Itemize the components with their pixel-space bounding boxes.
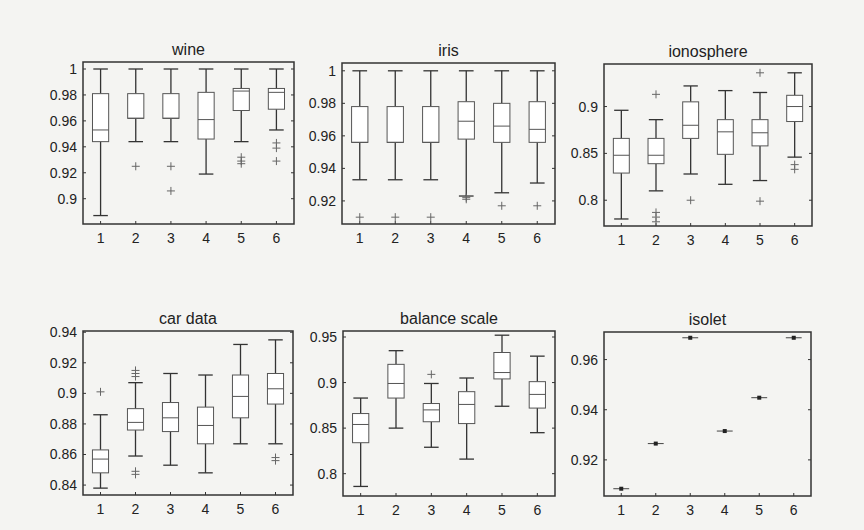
y-tick-label: 0.98: [309, 95, 336, 111]
x-tick-label: 5: [237, 230, 245, 246]
x-tick-label: 6: [533, 230, 541, 246]
point-marker: [757, 396, 761, 400]
subplot-title: ionosphere: [668, 43, 747, 60]
x-tick-label: 5: [498, 230, 506, 246]
iqr-box: [683, 102, 699, 139]
x-tick-label: 3: [167, 230, 175, 246]
figure-canvas: wine10.980.960.940.920.9123456iris10.980…: [0, 0, 864, 530]
y-tick-label: 0.92: [50, 165, 77, 181]
y-tick-label: 0.8: [318, 466, 338, 482]
x-tick-label: 3: [687, 232, 695, 248]
subplot-title: wine: [171, 41, 205, 58]
iqr-box: [388, 364, 404, 398]
iqr-box: [198, 92, 214, 139]
x-tick-label: 2: [652, 502, 660, 518]
subplot-title: isolet: [689, 311, 727, 328]
y-tick-label: 0.95: [310, 329, 337, 345]
y-tick-label: 0.9: [579, 99, 599, 115]
x-tick-label: 6: [533, 502, 541, 518]
iqr-box: [387, 107, 403, 143]
y-tick-label: 1: [328, 63, 336, 79]
iqr-box: [233, 88, 249, 110]
x-tick-label: 6: [791, 232, 799, 248]
x-tick-label: 5: [498, 502, 506, 518]
x-tick-label: 6: [790, 502, 798, 518]
iqr-box: [128, 94, 144, 119]
x-tick-label: 5: [237, 501, 245, 517]
iqr-box: [423, 107, 439, 143]
y-tick-label: 1: [69, 61, 77, 77]
figure-background: [0, 0, 864, 530]
y-tick-label: 0.94: [50, 324, 77, 340]
y-tick-label: 0.9: [318, 375, 338, 391]
iqr-box: [648, 138, 664, 163]
iqr-box: [459, 392, 475, 424]
x-tick-label: 1: [357, 502, 365, 518]
x-tick-label: 2: [391, 230, 399, 246]
x-tick-label: 2: [132, 501, 140, 517]
iqr-box: [162, 403, 178, 432]
x-tick-label: 1: [97, 501, 105, 517]
subplot-title: iris: [438, 42, 458, 59]
y-tick-label: 0.92: [50, 355, 77, 371]
x-tick-label: 1: [356, 230, 364, 246]
point-marker: [792, 336, 796, 340]
iqr-box: [352, 107, 368, 143]
x-tick-label: 3: [427, 230, 435, 246]
x-tick-label: 6: [273, 230, 281, 246]
iqr-box: [494, 103, 510, 142]
iqr-box: [92, 450, 108, 473]
point-marker: [619, 487, 623, 491]
x-tick-label: 3: [167, 501, 175, 517]
iqr-box: [268, 88, 284, 109]
y-tick-label: 0.92: [309, 193, 336, 209]
iqr-box: [353, 414, 369, 443]
iqr-box: [494, 353, 510, 379]
y-tick-label: 0.84: [50, 477, 77, 493]
x-tick-label: 1: [97, 230, 105, 246]
point-marker: [688, 336, 692, 340]
x-tick-label: 5: [755, 502, 763, 518]
subplot-title: car data: [159, 310, 217, 327]
x-tick-label: 4: [721, 232, 729, 248]
y-tick-label: 0.85: [571, 145, 598, 161]
iqr-box: [92, 94, 108, 142]
y-tick-label: 0.96: [571, 352, 598, 368]
y-tick-label: 0.94: [50, 139, 77, 155]
y-tick-label: 0.96: [50, 113, 77, 129]
x-tick-label: 4: [202, 501, 210, 517]
y-tick-label: 0.85: [310, 420, 337, 436]
iqr-box: [127, 409, 143, 430]
y-tick-label: 0.96: [309, 128, 336, 144]
iqr-box: [787, 95, 803, 121]
y-tick-label: 0.8: [579, 192, 599, 208]
x-tick-label: 1: [617, 232, 625, 248]
y-tick-label: 0.94: [309, 160, 336, 176]
x-tick-label: 4: [721, 502, 729, 518]
x-tick-label: 3: [686, 502, 694, 518]
iqr-box: [423, 404, 439, 422]
x-tick-label: 1: [617, 502, 625, 518]
y-tick-label: 0.92: [571, 452, 598, 468]
x-tick-label: 2: [392, 502, 400, 518]
x-tick-label: 4: [462, 230, 470, 246]
iqr-box: [163, 94, 179, 119]
x-tick-label: 4: [463, 502, 471, 518]
y-tick-label: 0.9: [58, 385, 78, 401]
y-tick-label: 0.88: [50, 416, 77, 432]
y-tick-label: 0.98: [50, 87, 77, 103]
figure: wine10.980.960.940.920.9123456iris10.980…: [0, 0, 864, 530]
x-tick-label: 5: [756, 232, 764, 248]
x-tick-label: 2: [132, 230, 140, 246]
iqr-box: [717, 120, 733, 155]
iqr-box: [458, 102, 474, 139]
point-marker: [654, 442, 658, 446]
subplot-title: balance scale: [400, 310, 498, 327]
iqr-box: [529, 102, 545, 143]
x-tick-label: 2: [652, 232, 660, 248]
point-marker: [723, 429, 727, 433]
y-tick-label: 0.9: [58, 191, 78, 207]
x-tick-label: 3: [427, 502, 435, 518]
y-tick-label: 0.94: [571, 402, 598, 418]
x-tick-label: 4: [202, 230, 210, 246]
